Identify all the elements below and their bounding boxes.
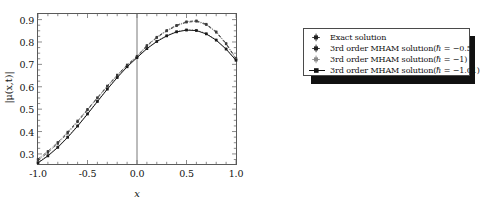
y-tick-label: 0.6: [19, 81, 34, 92]
y-tick-label: 0.8: [19, 36, 34, 47]
legend-item: Exact solution: [308, 32, 465, 43]
legend-label: 3rd order MHAM solution(ℏ = −0.5): [330, 43, 475, 54]
x-tick-label: -1.0: [29, 168, 47, 179]
plot-area: 0.30.40.50.60.70.80.9 -1.0-0.50.00.51.0 …: [0, 0, 250, 209]
chart-legend: Exact solution3rd order MHAM solution(ℏ …: [303, 28, 470, 76]
x-axis-title: x: [134, 188, 140, 199]
y-tick-label: 0.4: [19, 126, 34, 137]
legend-item: 3rd order MHAM solution(ℏ = −0.5): [308, 43, 465, 54]
x-tick-label: 0.5: [179, 168, 194, 179]
y-tick-label: 0.5: [19, 104, 34, 115]
dot-marker-light-icon: [308, 54, 330, 65]
x-tick-label: 1.0: [229, 168, 244, 179]
legend-item: 3rd order MHAM solution(ℏ = −1.01): [308, 65, 465, 76]
x-axis-tick-labels: -1.0-0.50.00.51.0: [0, 168, 250, 182]
legend-label: 3rd order MHAM solution(ℏ = −1.01): [330, 65, 480, 76]
x-tick-label: 0.0: [130, 168, 145, 179]
plot-frame: [37, 13, 237, 165]
x-tick-label: -0.5: [79, 168, 97, 179]
line-marker-icon: [308, 65, 330, 76]
legend-item: 3rd order MHAM solution(ℏ = −1): [308, 54, 465, 65]
y-axis-title: |μ(x,t)|: [3, 58, 14, 118]
y-tick-label: 0.7: [19, 59, 34, 70]
dot-marker-icon: [308, 32, 330, 43]
y-tick-label: 0.3: [19, 148, 34, 159]
y-tick-label: 0.9: [19, 14, 34, 25]
dot-marker-icon: [308, 43, 330, 54]
legend-label: 3rd order MHAM solution(ℏ = −1): [330, 54, 467, 65]
legend-label: Exact solution: [330, 32, 386, 43]
